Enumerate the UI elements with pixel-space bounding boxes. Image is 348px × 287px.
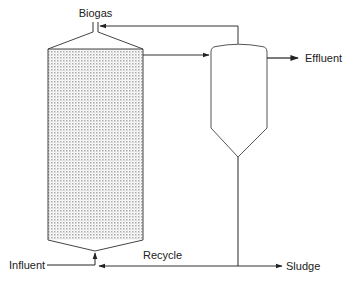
effluent-label: Effluent [305, 52, 342, 64]
biogas-label: Biogas [79, 7, 113, 19]
clarifier-outline [211, 44, 267, 157]
process-flow-diagram: Biogas Effluent Influent Recycle Sludge [0, 0, 348, 287]
reactor-vessel [48, 22, 143, 251]
recycle-label: Recycle [143, 249, 182, 261]
sludge-label: Sludge [286, 260, 320, 272]
clarifier-tank [211, 44, 267, 157]
clarifier-to-nozzle-line [100, 26, 238, 44]
influent-label: Influent [9, 259, 45, 271]
reactor-packing [48, 49, 143, 240]
